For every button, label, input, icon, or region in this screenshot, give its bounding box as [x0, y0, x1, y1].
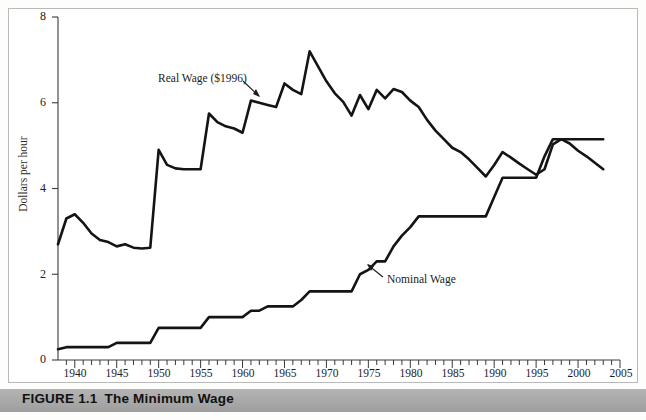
nominal-wage-line: [58, 139, 603, 349]
figure-number: FIGURE 1.1: [22, 391, 98, 406]
figure-title: The Minimum Wage: [105, 391, 234, 406]
real-wage-leader-arrow: [243, 81, 260, 97]
figure-caption: FIGURE 1.1The Minimum Wage: [22, 391, 234, 406]
chart-plot-area: [0, 0, 646, 420]
x-tick-marks: [66, 360, 620, 368]
real-wage-line: [58, 51, 603, 248]
axis-lines: [58, 17, 620, 360]
figure-container: Dollars per hour 8 6 4 2 0 1940 1945 195…: [0, 0, 646, 420]
y-tick-marks: [52, 17, 58, 360]
